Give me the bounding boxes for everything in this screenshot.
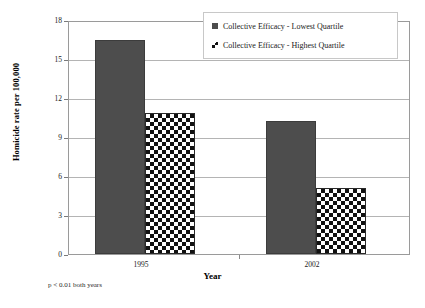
legend-item-lowest-quartile: Collective Efficacy - Lowest Quartile <box>212 19 391 33</box>
bar-1995-lowest-quartile <box>95 40 145 254</box>
legend-item-highest-quartile: Collective Efficacy - Highest Quartile <box>212 38 391 52</box>
footnote-significance: p < 0.01 both years <box>48 281 102 289</box>
bar-1995-highest-quartile <box>145 113 195 254</box>
legend-label-lowest-quartile: Collective Efficacy - Lowest Quartile <box>223 22 343 31</box>
x-tick-label-1995: 1995 <box>111 260 171 269</box>
x-tick-label-2002: 2002 <box>282 260 342 269</box>
x-tickmark-center <box>239 255 240 259</box>
y-tick-label-18: 18 <box>36 17 62 25</box>
bar-chart: Homicide rate per 100,000 18 15 12 9 6 3… <box>0 0 425 308</box>
y-tickmark-0 <box>64 255 68 256</box>
y-tick-label-3: 3 <box>36 212 62 220</box>
legend-label-highest-quartile: Collective Efficacy - Highest Quartile <box>223 41 345 50</box>
y-tick-label-9: 9 <box>36 134 62 142</box>
y-tick-label-15: 15 <box>36 56 62 64</box>
bar-2002-lowest-quartile <box>266 121 316 254</box>
y-tick-label-12: 12 <box>36 95 62 103</box>
x-axis-title: Year <box>0 271 425 281</box>
checkerboard-square-icon <box>212 42 218 48</box>
chart-legend: Collective Efficacy - Lowest Quartile Co… <box>203 12 398 59</box>
solid-square-icon <box>212 23 218 29</box>
y-tick-label-6: 6 <box>36 173 62 181</box>
y-tick-label-0: 0 <box>36 251 62 259</box>
bar-2002-highest-quartile <box>316 188 366 254</box>
